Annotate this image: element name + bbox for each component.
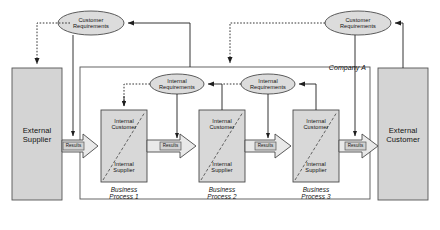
external-supplier-line2: Supplier xyxy=(12,136,62,145)
ic3-line2: Customer xyxy=(293,124,339,130)
external-customer-line2: Customer xyxy=(378,136,428,145)
external-supplier-label: External Supplier xyxy=(12,127,62,144)
bp1-line1: Business xyxy=(99,186,149,193)
company-a-label: Company A xyxy=(300,64,366,72)
is3-line2: Supplier xyxy=(293,167,339,173)
internal-supplier-label-2: Internal Supplier xyxy=(199,161,245,174)
results-label-1: Results xyxy=(63,143,84,148)
results-label-2: Results xyxy=(160,143,181,148)
bp1-line2: Process 1 xyxy=(99,193,149,200)
results-label-3: Results xyxy=(255,143,276,148)
customer-requirements-right-label: Customer Requirements xyxy=(325,17,391,30)
business-process-3-label: Business Process 3 xyxy=(291,186,341,200)
customer-requirements-left-label: Customer Requirements xyxy=(58,17,124,30)
results-label-4: Results xyxy=(345,143,366,148)
internal-customer-label-2: Internal Customer xyxy=(199,118,245,131)
is1-line2: Supplier xyxy=(101,167,147,173)
bp2-line1: Business xyxy=(197,186,247,193)
cr-left-line2: Requirements xyxy=(58,23,124,29)
ir1-line2: Requirements xyxy=(150,84,204,90)
business-process-2-label: Business Process 2 xyxy=(197,186,247,200)
bp3-line1: Business xyxy=(291,186,341,193)
connector-internal-req-1-to-p1 xyxy=(124,84,150,106)
connector-cust-req-right-into-companyA xyxy=(230,23,325,63)
bp3-line2: Process 3 xyxy=(291,193,341,200)
business-process-1-label: Business Process 1 xyxy=(99,186,149,200)
bp2-line2: Process 2 xyxy=(197,193,247,200)
internal-requirements-1-label: Internal Requirements xyxy=(150,78,204,91)
internal-supplier-label-3: Internal Supplier xyxy=(293,161,339,174)
ir2-line2: Requirements xyxy=(241,84,295,90)
is2-line2: Supplier xyxy=(199,167,245,173)
connector-ext-customer-to-cust-req-right xyxy=(395,23,403,68)
internal-requirements-2-label: Internal Requirements xyxy=(241,78,295,91)
ic1-line2: Customer xyxy=(101,124,147,130)
diagram-canvas: External Supplier External Customer Cust… xyxy=(0,0,440,230)
connector-companyA-to-cust-req-left xyxy=(128,23,190,67)
internal-supplier-label-1: Internal Supplier xyxy=(101,161,147,174)
internal-customer-label-1: Internal Customer xyxy=(101,118,147,131)
ic2-line2: Customer xyxy=(199,124,245,130)
external-customer-label: External Customer xyxy=(378,127,428,144)
internal-customer-label-3: Internal Customer xyxy=(293,118,339,131)
cr-right-line2: Requirements xyxy=(325,23,391,29)
